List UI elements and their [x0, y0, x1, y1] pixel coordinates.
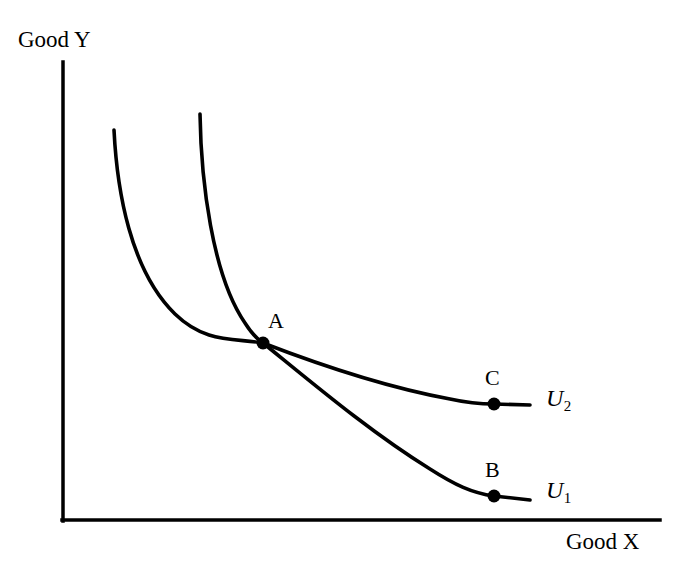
point-label-a: A	[268, 310, 284, 332]
y-axis-label: Good Y	[18, 28, 91, 51]
curve-label-u1-subscript: 1	[563, 490, 571, 506]
point-label-b: B	[485, 459, 500, 481]
point-marker-a	[257, 337, 270, 350]
plot-canvas	[0, 0, 686, 580]
indifference-curve-u2	[200, 114, 530, 405]
curve-label-u1-base: U	[546, 477, 563, 503]
indifference-curve-figure: Good Y Good X A B C U1 U2	[0, 0, 686, 580]
curve-label-u2-subscript: 2	[563, 398, 571, 414]
point-marker-c	[488, 398, 501, 411]
curve-label-u2: U2	[546, 386, 571, 414]
curve-label-u1: U1	[546, 478, 571, 506]
point-marker-b	[488, 490, 501, 503]
indifference-curve-u1	[114, 130, 530, 500]
curve-label-u2-base: U	[546, 385, 563, 411]
x-axis-label: Good X	[566, 530, 639, 553]
point-label-c: C	[485, 367, 500, 389]
